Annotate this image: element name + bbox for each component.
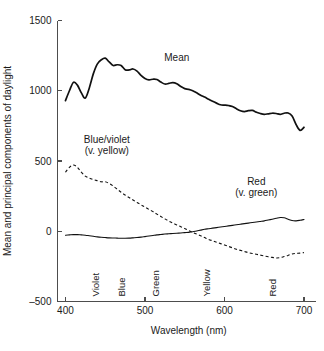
axes-group (58, 21, 317, 302)
y-tick-label: 1000 (29, 85, 52, 96)
y-tick-label: –500 (29, 296, 52, 307)
band-label-green: Green (150, 270, 161, 296)
y-axis-title: Mean and principal components of dayligh… (2, 66, 13, 256)
annotation-blue-violet-line-1: Blue/violet (84, 134, 130, 145)
annotation-mean-line-1: Mean (164, 52, 189, 63)
x-tick-label: 700 (296, 305, 313, 316)
y-tick-label: 1500 (29, 15, 52, 26)
band-label-blue: Blue (116, 277, 127, 296)
annotation-red-line-1: Red (247, 176, 265, 187)
band-label-violet: Violet (90, 273, 101, 297)
band-label-red: Red (267, 279, 278, 296)
annotation-red-line-2: (v. green) (235, 187, 277, 198)
x-tick-label: 500 (137, 305, 154, 316)
band-label-yellow: Yellow (201, 269, 212, 296)
y-tick-label: 0 (46, 226, 52, 237)
series-line-mean (65, 58, 304, 130)
series-line-blue-violet-v-yellow (65, 165, 304, 258)
annotation-blue-violet-line-2: (v. yellow) (85, 145, 129, 156)
x-tick-label: 600 (216, 305, 233, 316)
series-annotations-group: MeanBlue/violet(v. yellow)Red(v. green) (84, 52, 278, 199)
axis-titles-group: Wavelength (nm)Mean and principal compon… (2, 66, 227, 336)
series-group (65, 58, 304, 258)
ticks-group (58, 21, 305, 302)
chart-canvas: –500050010001500400500600700 VioletBlueG… (0, 0, 324, 351)
y-tick-label: 500 (35, 156, 52, 167)
x-tick-label: 400 (57, 305, 74, 316)
daylight-pca-chart-figure: –500050010001500400500600700 VioletBlueG… (0, 0, 324, 351)
spectral-band-labels-group: VioletBlueGreenYellowRed (90, 269, 278, 296)
x-axis-title: Wavelength (nm) (151, 325, 227, 336)
